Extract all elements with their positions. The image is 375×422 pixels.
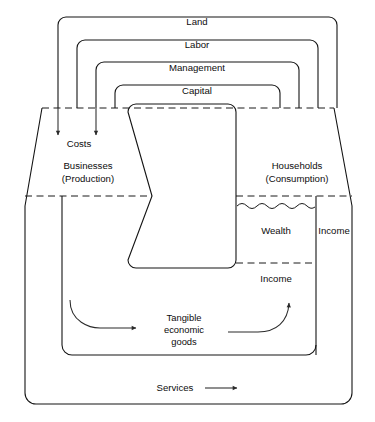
households-label-line1: Households bbox=[272, 160, 323, 171]
businesses-label-line1: Businesses bbox=[63, 160, 112, 171]
loop-label-capital: Capital bbox=[182, 85, 212, 96]
businesses-label-line2: (Production) bbox=[62, 173, 114, 184]
central-funnel bbox=[128, 104, 236, 268]
income-right-label: Income bbox=[318, 225, 349, 236]
outer-left-edge bbox=[25, 108, 42, 404]
diagram-canvas: Land Labor Management Capital Costs Busi… bbox=[0, 0, 375, 422]
goods-label-line2: economic bbox=[164, 324, 204, 335]
wealth-wavy-line bbox=[237, 204, 315, 209]
costs-label: Costs bbox=[67, 138, 92, 149]
loop-label-labor: Labor bbox=[185, 39, 210, 50]
loop-label-land: Land bbox=[186, 16, 207, 27]
outer-boundary-group bbox=[25, 108, 352, 404]
households-label-line2: (Consumption) bbox=[266, 173, 329, 184]
services-label: Services bbox=[157, 382, 194, 393]
goods-label-line3: goods bbox=[171, 336, 197, 347]
wealth-label: Wealth bbox=[261, 225, 291, 236]
loop-label-management: Management bbox=[169, 62, 225, 73]
income-lower-label: Income bbox=[260, 273, 291, 284]
economic-flow-diagram: Land Labor Management Capital Costs Busi… bbox=[0, 0, 375, 422]
resource-loop-labor bbox=[77, 40, 318, 108]
outer-right-edge bbox=[334, 108, 352, 404]
goods-inflow-arrow bbox=[70, 300, 136, 328]
funnel-outline bbox=[128, 104, 236, 268]
goods-label-line1: Tangible bbox=[167, 312, 202, 323]
loop-path-labor bbox=[77, 40, 318, 108]
goods-outflow-arrow bbox=[228, 303, 289, 332]
